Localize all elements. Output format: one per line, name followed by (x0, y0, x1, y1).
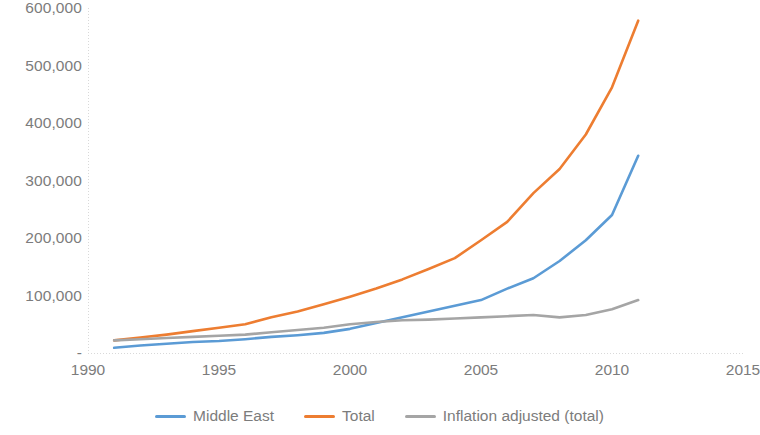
chart-legend: Middle EastTotalInflation adjusted (tota… (0, 402, 759, 430)
legend-swatch-icon (304, 415, 335, 418)
series-group (114, 21, 638, 348)
y-axis: -100,000200,000300,000400,000500,000600,… (0, 0, 82, 380)
legend-item[interactable]: Inflation adjusted (total) (405, 408, 604, 424)
series-line-middle-east (114, 156, 638, 348)
legend-item[interactable]: Total (304, 408, 375, 424)
x-axis-tick-label: 2010 (595, 362, 629, 378)
plot-area (88, 8, 743, 356)
y-axis-tick-label: 200,000 (4, 230, 82, 246)
legend-label: Total (342, 408, 375, 424)
x-axis-tick-label: 2000 (333, 362, 367, 378)
y-axis-tick-label: 600,000 (4, 0, 82, 16)
y-axis-tick-label: - (4, 345, 82, 361)
x-axis-tick-label: 1990 (71, 362, 105, 378)
x-axis-tick-label: 1995 (202, 362, 236, 378)
x-axis-tick-label: 2015 (726, 362, 760, 378)
x-axis: 199019952000200520102015 (0, 362, 759, 386)
series-line-inflation-adjusted-total (114, 300, 638, 340)
y-axis-tick-label: 300,000 (4, 173, 82, 189)
y-axis-tick-label: 100,000 (4, 288, 82, 304)
legend-item[interactable]: Middle East (155, 408, 274, 424)
legend-swatch-icon (155, 415, 186, 418)
y-axis-tick-label: 500,000 (4, 58, 82, 74)
plot-svg (88, 8, 743, 356)
y-axis-tick-label: 400,000 (4, 115, 82, 131)
series-line-total (114, 21, 638, 341)
legend-swatch-icon (405, 415, 436, 418)
legend-label: Inflation adjusted (total) (443, 408, 604, 424)
x-axis-tick-label: 2005 (464, 362, 498, 378)
legend-label: Middle East (193, 408, 274, 424)
